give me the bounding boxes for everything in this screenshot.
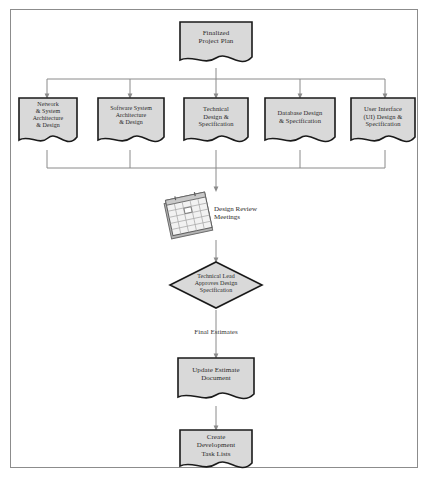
node-label: Technical Design & Specification — [182, 105, 250, 128]
node-user-interface-design-specification[interactable]: User Interface (UI) Design & Specificati… — [349, 96, 417, 150]
node-design-review-meetings[interactable] — [160, 190, 216, 240]
node-database-design-specification[interactable]: Database Design & Specification — [263, 96, 337, 150]
node-label: Network & System Architecture & Design — [17, 101, 79, 129]
node-finalized-project-plan[interactable]: Finalized Project Plan — [178, 20, 254, 68]
node-label: Software System Architecture & Design — [96, 105, 166, 126]
node-create-development-task-lists[interactable]: Create Development Task Lists — [178, 428, 254, 474]
node-software-system-architecture[interactable]: Software System Architecture & Design — [96, 96, 166, 150]
node-label: Technical Lead Approves Design Specifica… — [168, 273, 264, 294]
node-technical-design-specification[interactable]: Technical Design & Specification — [182, 96, 250, 150]
node-label: Update Estimate Document — [176, 366, 256, 383]
node-label: Finalized Project Plan — [178, 29, 254, 46]
calendar-icon — [160, 190, 216, 240]
node-label: Database Design & Specification — [263, 109, 337, 124]
node-technical-lead-approval-decision[interactable]: Technical Lead Approves Design Specifica… — [168, 260, 264, 310]
node-label: Create Development Task Lists — [178, 433, 254, 458]
node-update-estimate-document[interactable]: Update Estimate Document — [176, 356, 256, 406]
node-label: User Interface (UI) Design & Specificati… — [349, 105, 417, 128]
node-network-system-architecture[interactable]: Network & System Architecture & Design — [17, 96, 79, 150]
diagram-canvas: Finalized Project Plan Network & System … — [0, 0, 430, 480]
edge-label-final-estimates: Final Estimates — [166, 328, 266, 336]
calendar-caption: Design Review Meetings — [214, 205, 280, 222]
